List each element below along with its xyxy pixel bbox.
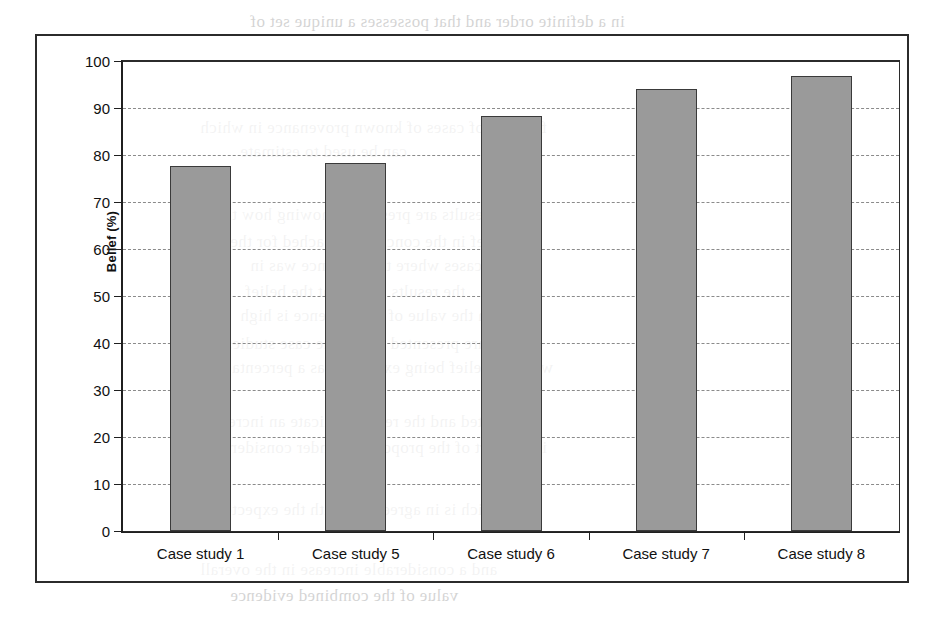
y-tick-100 bbox=[114, 61, 123, 62]
y-tick-label: 90 bbox=[93, 100, 110, 117]
bleedthrough-line: value of the combined evidence bbox=[230, 586, 458, 606]
bar-3[interactable] bbox=[481, 116, 542, 531]
y-tick-label: 0 bbox=[102, 523, 110, 540]
y-tick-20 bbox=[114, 437, 123, 438]
y-tick-label: 40 bbox=[93, 335, 110, 352]
x-axis-label: Case study 5 bbox=[266, 545, 446, 562]
y-tick-10 bbox=[114, 484, 123, 485]
x-axis-label: Case study 6 bbox=[421, 545, 601, 562]
figure-frame: Belief (%) 1009080706050403020100Case st… bbox=[35, 34, 909, 583]
y-tick-70 bbox=[114, 202, 123, 203]
y-tick-label: 20 bbox=[93, 429, 110, 446]
bar-2[interactable] bbox=[325, 163, 386, 531]
x-axis-label: Case study 1 bbox=[111, 545, 291, 562]
y-tick-label: 80 bbox=[93, 147, 110, 164]
x-tick bbox=[278, 531, 279, 540]
bleedthrough-line: in a definite order and that possesses a… bbox=[250, 12, 625, 32]
bar-4[interactable] bbox=[636, 89, 697, 531]
gridline-0 bbox=[123, 531, 899, 532]
y-tick-label: 30 bbox=[93, 382, 110, 399]
x-tick bbox=[589, 531, 590, 540]
x-axis-label: Case study 7 bbox=[576, 545, 756, 562]
y-tick-50 bbox=[114, 296, 123, 297]
y-tick-label: 60 bbox=[93, 241, 110, 258]
gridline-100 bbox=[123, 61, 899, 62]
y-tick-label: 10 bbox=[93, 476, 110, 493]
y-tick-0 bbox=[114, 531, 123, 532]
gridline-90 bbox=[123, 108, 899, 109]
x-tick bbox=[744, 531, 745, 540]
y-tick-30 bbox=[114, 390, 123, 391]
x-tick bbox=[433, 531, 434, 540]
y-tick-label: 70 bbox=[93, 194, 110, 211]
x-axis-label: Case study 8 bbox=[731, 545, 911, 562]
y-tick-40 bbox=[114, 343, 123, 344]
bar-chart: Belief (%) 1009080706050403020100Case st… bbox=[37, 36, 911, 585]
y-tick-label: 100 bbox=[85, 53, 110, 70]
y-tick-60 bbox=[114, 249, 123, 250]
y-tick-80 bbox=[114, 155, 123, 156]
bar-1[interactable] bbox=[170, 166, 231, 531]
bar-5[interactable] bbox=[791, 76, 852, 531]
y-tick-90 bbox=[114, 108, 123, 109]
plot-area: 1009080706050403020100Case study 1Case s… bbox=[121, 60, 900, 533]
y-tick-label: 50 bbox=[93, 288, 110, 305]
